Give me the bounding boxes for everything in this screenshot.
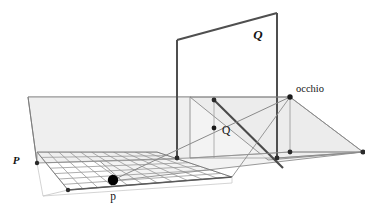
image-point-p-marker [108,175,118,185]
perspective-projection-figure: Q P occhio Q p [0,0,365,222]
image-plane-label-P: P [13,154,20,166]
vertex-right-plane-front-marker [288,150,293,155]
vertex-ground-left-marker [35,161,39,165]
eye-label-occhio: occhio [296,83,324,94]
vertex-ground-front-marker [66,188,70,192]
diagram-canvas: Q P occhio Q p [0,0,365,222]
projected-point-label-Q: Q [222,124,231,136]
vertex-upper-ray-origin-marker [212,98,217,103]
image-plane-P-surface [28,97,190,163]
image-point-label-p: p [110,190,116,203]
eye-point-occhio-marker [287,94,292,99]
projected-point-Q-marker [212,126,217,131]
vertex-base-post-right-marker [275,156,280,161]
object-plane-label-Q: Q [253,27,263,42]
vertex-base-post-left-marker [175,156,180,161]
